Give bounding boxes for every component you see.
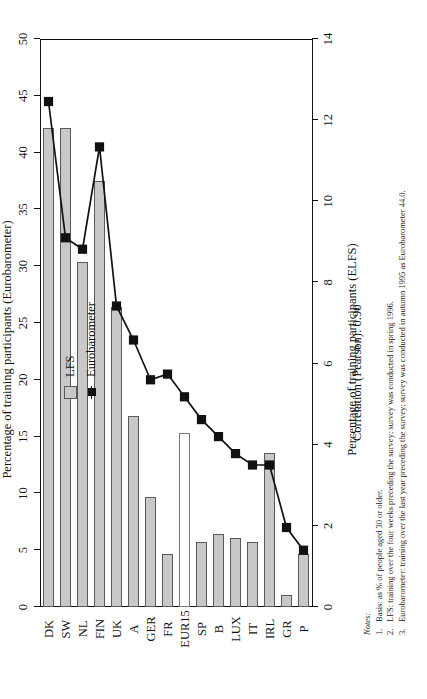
category-label-dk: DK bbox=[42, 620, 55, 638]
data-point-irl bbox=[265, 460, 274, 469]
legend-label-eurobarometer: Eurobarometer bbox=[84, 302, 99, 377]
tick-label: 0 bbox=[322, 604, 335, 610]
tick-mark bbox=[34, 492, 40, 493]
tick-label: 10 bbox=[322, 195, 335, 208]
data-point-gr bbox=[282, 523, 291, 532]
tick-mark bbox=[34, 322, 40, 323]
data-point-it bbox=[248, 460, 257, 469]
notes-block: Notes: 1.Basis: as % of people aged 30 o… bbox=[362, 205, 422, 635]
note-text: Eurobarometer: training over the last ye… bbox=[397, 190, 408, 622]
tick-mark bbox=[312, 200, 318, 201]
data-point-nl bbox=[78, 245, 87, 254]
data-point-p bbox=[299, 546, 308, 555]
tick-label: 35 bbox=[17, 203, 30, 216]
category-label-ger: GER bbox=[144, 617, 157, 642]
legend-item-eurobarometer: Eurobarometer bbox=[83, 302, 99, 399]
tick-mark bbox=[34, 436, 40, 437]
data-point-ger bbox=[146, 375, 155, 384]
note-item: 2.LFS: training over the four weeks prec… bbox=[385, 205, 396, 635]
category-label-uk: UK bbox=[110, 620, 123, 638]
category-label-p: P bbox=[297, 626, 310, 633]
tick-mark bbox=[34, 152, 40, 153]
tick-label: 30 bbox=[17, 260, 30, 273]
top-axis-title: Percentage of training participants (Eur… bbox=[0, 220, 15, 478]
tick-mark bbox=[34, 208, 40, 209]
note-number: 3. bbox=[397, 622, 408, 635]
data-point-uk bbox=[112, 301, 121, 310]
chart-legend: LFS Eurobarometer bbox=[62, 302, 104, 399]
category-label-fin: FIN bbox=[93, 619, 106, 639]
tick-mark bbox=[34, 38, 40, 39]
tick-label: 50 bbox=[17, 33, 30, 46]
note-item: 3.Eurobarometer: training over the last … bbox=[397, 205, 408, 635]
tick-label: 14 bbox=[322, 33, 335, 46]
data-point-fr bbox=[163, 370, 172, 379]
note-number: 2. bbox=[385, 622, 396, 635]
legend-label-lfs: LFS bbox=[63, 355, 78, 377]
category-label-a: A bbox=[127, 624, 140, 633]
tick-mark bbox=[34, 265, 40, 266]
tick-mark bbox=[34, 95, 40, 96]
tick-mark bbox=[312, 38, 318, 39]
bottom-axis-line bbox=[312, 39, 313, 607]
data-point-eur15 bbox=[180, 392, 189, 401]
tick-label: 6 bbox=[322, 360, 335, 366]
tick-label: 2 bbox=[322, 523, 335, 529]
tick-mark bbox=[34, 549, 40, 550]
tick-mark bbox=[312, 444, 318, 445]
category-label-irl: IRL bbox=[263, 619, 276, 639]
data-point-a bbox=[129, 335, 138, 344]
tick-label: 20 bbox=[17, 374, 30, 387]
legend-item-lfs: LFS bbox=[62, 302, 78, 399]
data-point-lux bbox=[231, 449, 240, 458]
black-square-line-icon bbox=[85, 386, 98, 399]
notes-list: 1.Basis: as % of people aged 30 or older… bbox=[374, 205, 408, 635]
category-label-sp: SP bbox=[195, 622, 208, 636]
tick-mark bbox=[312, 606, 318, 607]
category-label-eur15: EUR15 bbox=[178, 610, 191, 648]
note-number: 1. bbox=[374, 622, 385, 635]
note-text: Basis: as % of people aged 30 or older. bbox=[374, 490, 385, 622]
tick-label: 12 bbox=[322, 114, 335, 127]
data-point-sp bbox=[197, 415, 206, 424]
data-point-b bbox=[214, 432, 223, 441]
tick-mark bbox=[312, 363, 318, 364]
notes-heading: Notes: bbox=[362, 205, 373, 635]
tick-mark bbox=[312, 525, 318, 526]
tick-label: 5 bbox=[17, 547, 30, 553]
note-item: 1.Basis: as % of people aged 30 or older… bbox=[374, 205, 385, 635]
category-label-b: B bbox=[212, 625, 225, 633]
gray-square-icon bbox=[64, 386, 77, 399]
tick-label: 10 bbox=[17, 487, 30, 500]
category-label-nl: NL bbox=[76, 621, 89, 638]
category-label-sw: SW bbox=[59, 620, 72, 639]
tick-mark bbox=[312, 119, 318, 120]
data-point-dk bbox=[44, 97, 53, 106]
figure-page: Percentage of training participants (Eur… bbox=[0, 0, 427, 699]
tick-label: 4 bbox=[322, 442, 335, 448]
tick-mark bbox=[34, 606, 40, 607]
data-point-sw bbox=[61, 233, 70, 242]
tick-label: 40 bbox=[17, 146, 30, 159]
category-label-fr: FR bbox=[161, 621, 174, 636]
tick-label: 0 bbox=[17, 604, 30, 610]
tick-label: 25 bbox=[17, 317, 30, 330]
tick-label: 8 bbox=[322, 279, 335, 285]
data-point-fin bbox=[95, 142, 104, 151]
category-label-it: IT bbox=[246, 623, 259, 635]
tick-mark bbox=[34, 379, 40, 380]
tick-label: 15 bbox=[17, 430, 30, 443]
note-text: LFS: training over the four weeks preced… bbox=[385, 301, 396, 622]
tick-mark bbox=[312, 281, 318, 282]
tick-label: 45 bbox=[17, 90, 30, 103]
category-label-lux: LUX bbox=[229, 616, 242, 642]
category-label-gr: GR bbox=[280, 620, 293, 637]
